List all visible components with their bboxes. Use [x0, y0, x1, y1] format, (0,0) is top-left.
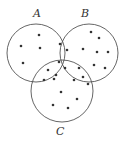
element-dot — [58, 61, 61, 64]
element-dot — [90, 31, 93, 34]
element-dot — [76, 98, 79, 101]
element-dot — [55, 74, 58, 77]
circle-set-c — [31, 60, 93, 122]
element-dot — [53, 78, 56, 81]
element-dot — [20, 45, 23, 48]
element-dot — [78, 67, 81, 70]
set-label-c: C — [56, 126, 64, 137]
set-label-a: A — [33, 8, 41, 19]
element-dot — [98, 37, 101, 40]
element-dot — [66, 49, 69, 52]
element-dot — [82, 76, 85, 79]
element-dot — [67, 107, 70, 110]
element-dot — [93, 64, 96, 67]
element-dot — [60, 91, 63, 94]
element-dot — [107, 51, 110, 54]
element-dot — [22, 62, 25, 65]
element-dot — [39, 47, 42, 50]
element-dot — [47, 69, 50, 72]
element-dot — [43, 79, 46, 82]
element-dot — [82, 48, 85, 51]
element-dot — [59, 43, 62, 46]
element-dot — [64, 67, 67, 70]
element-dot — [104, 67, 107, 70]
venn-diagram — [0, 0, 125, 143]
circle-set-b — [60, 24, 118, 82]
element-dot — [96, 51, 99, 54]
circle-set-a — [7, 24, 65, 82]
element-dot — [52, 104, 55, 107]
element-dot — [38, 34, 41, 37]
element-dots — [20, 31, 110, 110]
element-dot — [73, 79, 76, 82]
set-label-b: B — [81, 8, 89, 19]
set-circles — [7, 24, 118, 122]
element-dot — [87, 83, 90, 86]
